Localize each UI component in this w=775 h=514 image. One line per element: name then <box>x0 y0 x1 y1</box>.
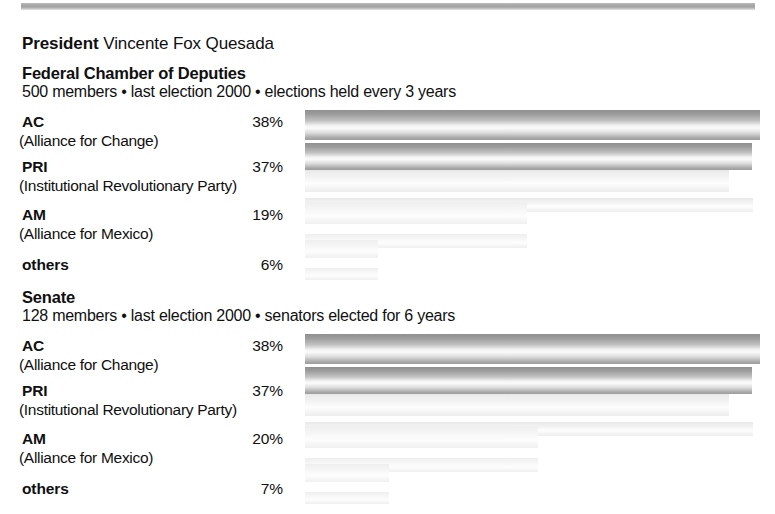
section-title-senate: Senate <box>22 288 75 307</box>
party-full-senate-am: (Alliance for Mexico) <box>19 449 153 467</box>
bar-deputies-pri-tail <box>305 170 729 192</box>
party-pct-senate-am: 20% <box>150 430 283 448</box>
president-label: President <box>22 34 99 53</box>
party-full-senate-ac: (Alliance for Change) <box>19 356 158 374</box>
bar-senate-pri <box>305 367 752 394</box>
section-subtitle-deputies: 500 members • last election 2000 • elect… <box>22 83 456 101</box>
party-full-deputies-ac: (Alliance for Change) <box>19 132 158 150</box>
party-pct-senate-ac: 38% <box>150 337 283 355</box>
bar-senate-ac <box>305 334 760 364</box>
president-line: President Vincente Fox Quesada <box>22 34 274 54</box>
party-pct-senate-others: 7% <box>150 480 283 498</box>
bar-deputies-pri <box>305 143 752 170</box>
party-abbr-senate-pri: PRI <box>22 382 48 400</box>
section-subtitle-senate: 128 members • last election 2000 • senat… <box>22 307 455 325</box>
party-abbr-deputies-pri: PRI <box>22 158 48 176</box>
party-pct-deputies-others: 6% <box>150 256 283 274</box>
party-abbr-deputies-others: others <box>22 256 69 274</box>
party-pct-senate-pri: 37% <box>150 382 283 400</box>
bar-senate-am <box>305 426 538 448</box>
bar-deputies-am <box>305 202 527 224</box>
party-abbr-deputies-am: AM <box>22 206 46 224</box>
party-pct-deputies-am: 19% <box>150 206 283 224</box>
party-pct-deputies-ac: 38% <box>150 113 283 131</box>
bar-deputies-others-tail <box>305 268 378 280</box>
party-abbr-senate-am: AM <box>22 430 46 448</box>
party-abbr-deputies-ac: AC <box>22 113 44 131</box>
party-full-senate-pri: (Institutional Revolutionary Party) <box>19 401 237 419</box>
bar-deputies-others <box>305 240 378 258</box>
party-abbr-senate-ac: AC <box>22 337 44 355</box>
president-name: Vincente Fox Quesada <box>103 34 274 53</box>
fact-panel: President Vincente Fox Quesada Federal C… <box>0 0 775 514</box>
bar-senate-others <box>305 464 389 482</box>
header-rule-icon <box>21 3 755 10</box>
party-full-deputies-pri: (Institutional Revolutionary Party) <box>19 177 237 195</box>
bar-senate-pri-tail <box>305 394 729 416</box>
bar-deputies-ac <box>305 110 760 140</box>
party-pct-deputies-pri: 37% <box>150 158 283 176</box>
section-title-deputies: Federal Chamber of Deputies <box>22 64 246 83</box>
party-full-deputies-am: (Alliance for Mexico) <box>19 225 153 243</box>
bar-senate-others-tail <box>305 492 389 504</box>
party-abbr-senate-others: others <box>22 480 69 498</box>
